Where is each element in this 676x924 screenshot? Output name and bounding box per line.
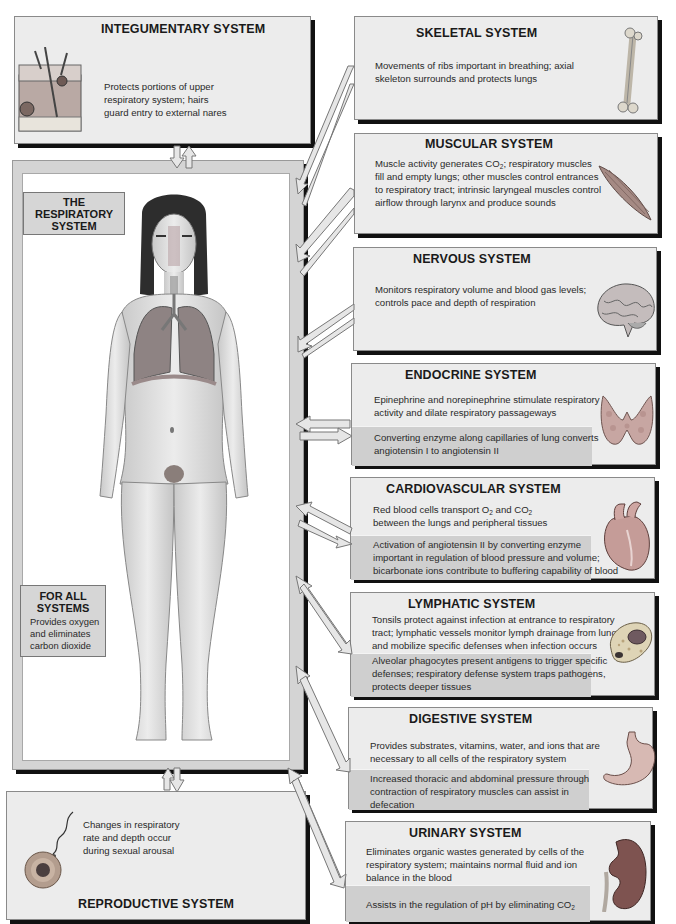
- arrow-endocrine-left: [296, 416, 350, 432]
- arrow-integumentary-down: [170, 146, 184, 168]
- arrow-reproductive-down: [170, 768, 184, 792]
- arrow-integumentary-up: [182, 146, 196, 168]
- connector-arrows: [0, 0, 676, 924]
- arrow-reproductive-up: [162, 768, 174, 790]
- arrow-skeletal: [296, 66, 354, 194]
